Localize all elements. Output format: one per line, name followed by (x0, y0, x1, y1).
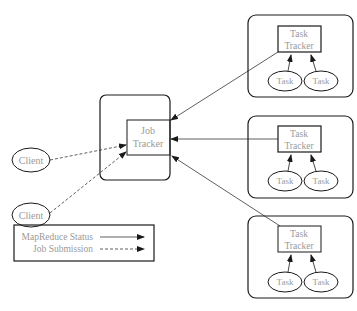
job-tracker-label-1: Job (141, 125, 155, 136)
task-node: Task Tracker Task Task (248, 216, 353, 298)
client-node: Client (12, 148, 50, 172)
task-tracker-label-2: Tracker (284, 241, 314, 251)
task-label: Task (313, 277, 330, 287)
submission-arrow (50, 145, 126, 160)
task-node: Task Tracker Task Task (248, 116, 353, 198)
task-label: Task (277, 176, 294, 186)
status-arrow (172, 156, 280, 226)
task-label: Task (277, 277, 294, 287)
task-label: Task (313, 176, 330, 186)
status-arrow (171, 52, 278, 120)
legend-status-label: MapReduce Status (21, 232, 93, 242)
task-tracker-label-1: Task (290, 229, 308, 239)
job-tracker-node: Job Tracker (100, 95, 170, 180)
client-label: Client (19, 155, 44, 166)
legend: MapReduce Status Job Submission (14, 225, 154, 261)
task-tracker-label-2: Tracker (284, 141, 314, 151)
task-tracker-label-1: Task (290, 29, 308, 39)
task-label: Task (313, 76, 330, 86)
client-label: Client (19, 210, 44, 221)
client-node: Client (12, 203, 50, 227)
task-node: Task Tracker Task Task (248, 15, 353, 97)
legend-submission-label: Job Submission (33, 244, 93, 254)
job-tracker-label-2: Tracker (133, 138, 164, 149)
task-label: Task (277, 76, 294, 86)
mapreduce-architecture-diagram: Client Client Job Tracker Task Tracker T… (0, 0, 357, 311)
submission-arrow (50, 152, 126, 213)
task-tracker-label-1: Task (290, 129, 308, 139)
task-tracker-label-2: Tracker (284, 41, 314, 51)
